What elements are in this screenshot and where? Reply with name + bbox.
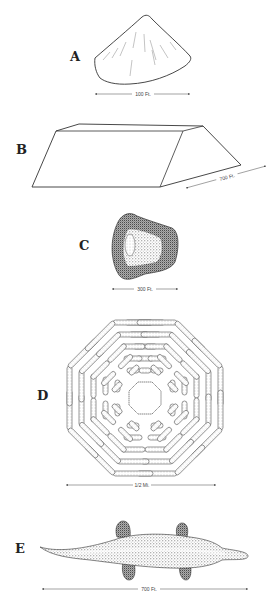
figure-label-a: A xyxy=(70,49,80,64)
prism-mound-shape xyxy=(32,124,241,187)
figure-b: 700 Ft. xyxy=(32,124,266,188)
figure-d xyxy=(67,320,223,476)
central-octagon xyxy=(129,382,161,414)
figure-canvas: 100 Ft. 700 Ft. 300 Ft. xyxy=(0,0,277,602)
alligator-back-left-leg xyxy=(176,523,187,537)
scale-label-d: 1/2 Mi. xyxy=(134,482,149,488)
enclosure-center xyxy=(125,234,135,256)
alligator-front-left-leg xyxy=(116,521,130,538)
scale-label-c: 300 Ft. xyxy=(137,286,153,292)
figure-c: 300 Ft. xyxy=(112,214,178,292)
figure-a: 100 Ft. xyxy=(95,15,191,97)
conical-mound-shape xyxy=(95,15,191,84)
figure-e: 700 Ft. xyxy=(40,521,248,592)
scale-label-a: 100 Ft. xyxy=(135,91,151,97)
figure-label-e: E xyxy=(15,541,25,556)
scale-label-e: 700 Ft. xyxy=(141,586,157,592)
figure-label-d: D xyxy=(37,388,48,403)
figure-d-scale: 1/2 Mi. xyxy=(66,482,216,488)
figure-label-b: B xyxy=(16,142,27,157)
figure-label-c: C xyxy=(79,238,89,253)
